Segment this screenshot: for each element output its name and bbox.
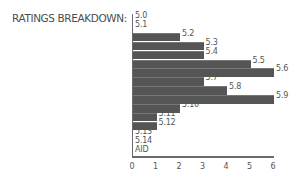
category-label: 5.4 — [206, 47, 218, 56]
bar — [133, 42, 204, 51]
x-axis-line — [132, 156, 274, 158]
bar-chart: 5.05.15.25.35.45.55.65.75.85.95.105.115.… — [132, 14, 277, 157]
category-label: 5.11 — [159, 109, 176, 118]
x-tick-label: 4 — [223, 162, 228, 171]
x-tick-label: 6 — [270, 162, 275, 171]
x-tick-label: 5 — [247, 162, 252, 171]
bar — [133, 33, 180, 42]
x-tick-label: 0 — [129, 162, 134, 171]
x-tick-label: 1 — [153, 162, 158, 171]
category-label: 5.3 — [206, 38, 218, 47]
bar — [133, 113, 157, 122]
category-label: 5.5 — [253, 56, 265, 65]
bar — [133, 95, 274, 104]
category-label: 5.12 — [159, 118, 176, 127]
category-label: AID — [135, 145, 148, 154]
category-label: 5.9 — [276, 91, 288, 100]
x-tick-label: 3 — [200, 162, 205, 171]
bar — [133, 77, 204, 86]
bar — [133, 51, 204, 60]
category-label: 5.7 — [206, 73, 218, 82]
category-label: 5.2 — [182, 29, 194, 38]
category-label: 5.0 — [135, 11, 147, 20]
category-label: 5.8 — [229, 82, 241, 91]
chart-title: RATINGS BREAKDOWN: — [12, 12, 127, 24]
category-label: 5.1 — [135, 20, 147, 29]
bar — [133, 60, 251, 69]
x-tick-label: 2 — [176, 162, 181, 171]
bar — [133, 68, 274, 77]
category-label: 5.6 — [276, 64, 288, 73]
category-label: 5.13 — [135, 127, 152, 136]
category-label: 5.14 — [135, 136, 152, 145]
category-label: 5.10 — [182, 100, 199, 109]
bar — [133, 86, 227, 95]
